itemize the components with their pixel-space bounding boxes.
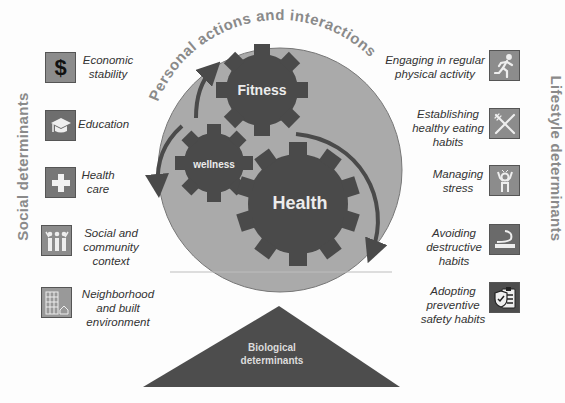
lifestyle-item-safety: Adopting preventive safety habits xyxy=(418,284,488,326)
label-line: Managing xyxy=(432,167,484,181)
label-line: safety habits xyxy=(418,312,488,326)
social-item-economic: Economic stability xyxy=(78,53,138,81)
label-line: Avoiding xyxy=(424,226,484,240)
lifestyle-item-stress: Managing stress xyxy=(432,167,484,195)
fork-knife-icon xyxy=(489,108,520,139)
biological-label-2: determinants xyxy=(241,355,304,366)
social-determinants-title: Social determinants xyxy=(14,87,31,247)
social-item-community: Social and community context xyxy=(80,226,142,268)
label-line: community xyxy=(80,240,142,254)
lifestyle-determinants-title: Lifestyle determinants xyxy=(548,69,565,249)
label-line: Adopting xyxy=(418,284,488,298)
wellness-label: wellness xyxy=(192,159,235,170)
label-line: destructive xyxy=(424,240,484,254)
stress-icon xyxy=(489,165,520,196)
lifestyle-item-eating: Establishing healthy eating habits xyxy=(410,107,486,149)
label-line: physical activity xyxy=(380,67,490,81)
label-line: Economic xyxy=(78,53,138,67)
runner-icon xyxy=(489,50,520,81)
label-line: preventive xyxy=(418,298,488,312)
dollar-icon: $ xyxy=(45,52,76,83)
biological-label-1: Biological xyxy=(248,342,296,353)
label-line: Education xyxy=(78,117,129,131)
label-line: Establishing xyxy=(410,107,486,121)
label-line: stability xyxy=(78,67,138,81)
social-item-neighborhood: Neighborhood and built environment xyxy=(80,287,156,329)
community-icon xyxy=(41,225,72,256)
label-line: Social and xyxy=(80,226,142,240)
fitness-label: Fitness xyxy=(237,82,286,98)
social-item-education: Education xyxy=(78,117,129,131)
label-line: habits xyxy=(424,254,484,268)
label-line: stress xyxy=(432,181,484,195)
building-icon xyxy=(41,287,72,318)
lifestyle-item-activity: Engaging in regular physical activity xyxy=(380,53,490,81)
label-line: care xyxy=(78,182,118,196)
lifestyle-item-destructive: Avoiding destructive habits xyxy=(424,226,484,268)
label-line: habits xyxy=(410,135,486,149)
label-line: Health xyxy=(78,168,118,182)
social-item-health-care: Health care xyxy=(78,168,118,196)
label-line: context xyxy=(80,254,142,268)
graduation-cap-icon xyxy=(45,110,76,141)
medical-cross-icon xyxy=(45,167,76,198)
label-line: and built xyxy=(80,301,156,315)
label-line: healthy eating xyxy=(410,121,486,135)
health-label: Health xyxy=(272,193,327,213)
label-line: environment xyxy=(80,315,156,329)
cigarette-icon xyxy=(489,224,520,255)
label-line: Engaging in regular xyxy=(380,53,490,67)
safety-clipboard-icon xyxy=(489,282,520,313)
label-line: Neighborhood xyxy=(80,287,156,301)
